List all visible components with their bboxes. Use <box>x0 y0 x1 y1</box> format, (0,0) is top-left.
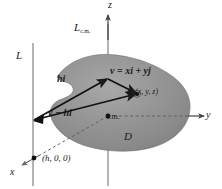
vector-v-minus-hi-label: v − hi <box>48 108 72 118</box>
point-xyz-label: (x, y, z) <box>135 88 158 96</box>
vector-v-equation-label: v = xi + yj <box>110 66 151 76</box>
y-axis-label: y <box>206 110 210 120</box>
vector-diagram-figure: z y x L Lc.m. hi v − hi v = xi + yj (x, … <box>0 0 222 189</box>
x-axis-label: x <box>10 167 14 177</box>
x-axis <box>22 155 40 165</box>
region-D-label: D <box>124 131 132 142</box>
line-Lcm-label-subscript: c.m. <box>80 28 90 34</box>
point-cm-label: c.m. <box>106 113 120 121</box>
vector-hi-label: hi <box>57 74 65 84</box>
point-h00-dot <box>32 156 37 161</box>
line-Lcm-label: Lc.m. <box>74 22 90 33</box>
point-h00-label: (h, 0, 0) <box>42 154 71 163</box>
z-axis-label: z <box>108 0 112 10</box>
line-L-label: L <box>16 50 22 61</box>
diagram-canvas <box>0 0 222 189</box>
